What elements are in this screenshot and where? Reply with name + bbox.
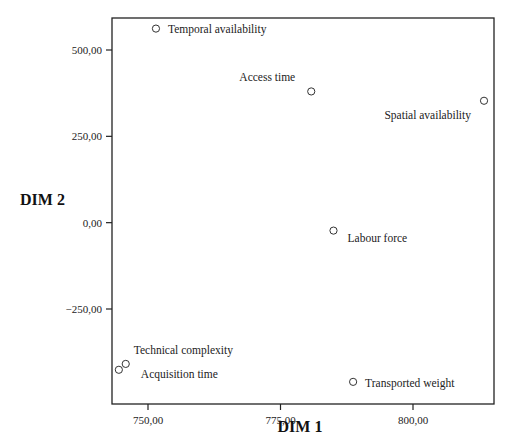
data-point: Spatial availability xyxy=(384,97,487,122)
point-label: Access time xyxy=(239,71,295,83)
circle-marker-icon xyxy=(480,97,487,104)
x-tick-label: 800,00 xyxy=(398,414,429,426)
y-axis-title: DIM 2 xyxy=(20,191,65,208)
circle-marker-icon xyxy=(152,25,159,32)
circle-marker-icon xyxy=(115,366,122,373)
point-label: Technical complexity xyxy=(134,344,233,357)
y-tick-label: 0,00 xyxy=(83,217,103,229)
y-axis-ticks: 500,00250,000,00−250,00 xyxy=(66,44,112,315)
data-point: Access time xyxy=(239,71,314,95)
point-label: Labour force xyxy=(348,232,408,244)
circle-marker-icon xyxy=(308,88,315,95)
x-tick-label: 750,00 xyxy=(133,414,164,426)
data-point: Transported weight xyxy=(350,377,456,390)
x-axis-title: DIM 1 xyxy=(278,418,323,435)
circle-marker-icon xyxy=(122,360,129,367)
data-point: Acquisition time xyxy=(115,366,218,381)
data-points: Temporal availabilityAccess timeSpatial … xyxy=(115,23,487,390)
data-point: Temporal availability xyxy=(152,23,266,36)
scatter-plot: 750,00775,00800,00 500,00250,000,00−250,… xyxy=(0,0,505,446)
point-label: Transported weight xyxy=(365,377,455,390)
circle-marker-icon xyxy=(330,227,337,234)
circle-marker-icon xyxy=(350,378,357,385)
y-tick-label: −250,00 xyxy=(66,303,103,315)
y-tick-label: 250,00 xyxy=(72,130,103,142)
point-label: Temporal availability xyxy=(168,23,267,36)
data-point: Technical complexity xyxy=(122,344,233,368)
point-label: Acquisition time xyxy=(141,368,218,381)
data-point: Labour force xyxy=(330,227,407,244)
y-tick-label: 500,00 xyxy=(72,44,103,56)
point-label: Spatial availability xyxy=(384,109,471,122)
